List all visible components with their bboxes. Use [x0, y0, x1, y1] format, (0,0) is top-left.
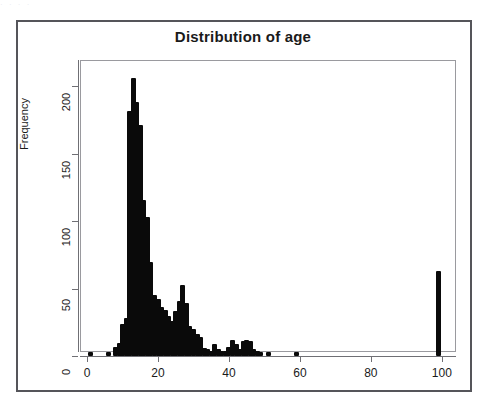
bar-age-1	[88, 352, 93, 356]
x-tick-label-40: 40	[209, 366, 249, 380]
chart-plot-area	[80, 60, 456, 352]
x-tick-label-100: 100	[422, 366, 462, 380]
y-tick-label-200: 200	[60, 85, 72, 119]
bar-age-49	[258, 352, 263, 356]
y-tick-50	[72, 289, 78, 290]
x-tick-0	[87, 356, 88, 362]
x-tick-80	[371, 356, 372, 362]
y-tick-0	[72, 356, 78, 357]
page-title: Distribution of age	[0, 28, 486, 45]
x-tick-label-20: 20	[138, 366, 178, 380]
scan-artifact: · · · ·	[0, 0, 486, 10]
bar-age-99	[436, 271, 441, 356]
y-tick-150	[72, 154, 78, 155]
x-axis-line	[80, 356, 456, 357]
x-tick-label-80: 80	[351, 366, 391, 380]
y-axis-line	[78, 60, 79, 352]
x-tick-label-60: 60	[280, 366, 320, 380]
y-tick-label-100: 100	[60, 220, 72, 254]
y-tick-label-50: 50	[60, 288, 72, 322]
bar-age-51	[266, 352, 271, 356]
y-axis-title: Frequency	[18, 98, 30, 150]
x-tick-100	[442, 356, 443, 362]
y-tick-label-150: 150	[60, 153, 72, 187]
y-tick-200	[72, 86, 78, 87]
x-tick-20	[158, 356, 159, 362]
x-tick-40	[229, 356, 230, 362]
bar-age-59	[294, 352, 299, 356]
x-tick-60	[300, 356, 301, 362]
bar-age-6	[106, 352, 111, 356]
y-tick-100	[72, 221, 78, 222]
x-tick-label-0: 0	[67, 366, 107, 380]
